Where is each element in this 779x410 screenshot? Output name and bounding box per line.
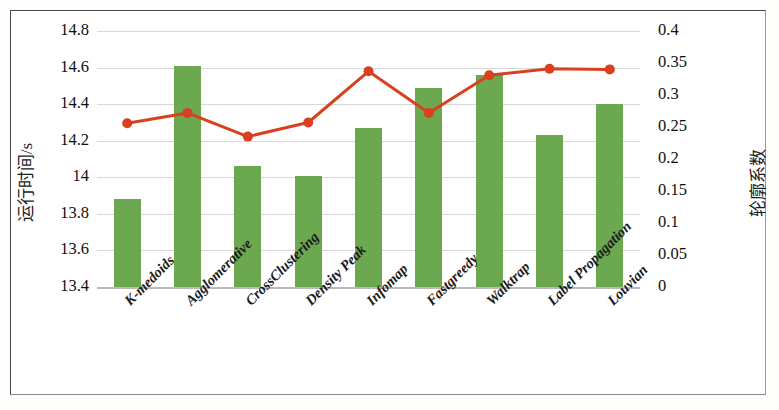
y-axis-left-tick-label: 14.2 [43, 130, 89, 150]
plot-area: K-medoids: 0.256Agglomerative: 0.272Cros… [97, 31, 640, 287]
y-axis-left-tick-label: 13.8 [43, 203, 89, 223]
y-axis-right-tick-label: 0.4 [658, 20, 718, 40]
y-axis-left-tick-label: 14.6 [43, 57, 89, 77]
line-marker: CrossClustering: 0.235 [243, 132, 253, 142]
y-axis-right-tick-label: 0.2 [658, 148, 718, 168]
y-axis-left-tick-label: 13.4 [43, 276, 89, 296]
line-marker: Label Propagation: 0.341 [545, 64, 555, 74]
line-marker: K-medoids: 0.256 [122, 118, 132, 128]
line-path [127, 69, 610, 137]
line-marker: Fastgreedy: 0.272 [424, 108, 434, 118]
y-axis-left-title: 运行时间/s [12, 103, 37, 263]
line-marker: Agglomerative: 0.272 [183, 108, 193, 118]
y-axis-left-tick-label: 14.4 [43, 93, 89, 113]
chart-figure: 运行时间/s 轮廓系数 13.413.613.81414.214.414.614… [0, 0, 779, 410]
y-axis-right-tick-label: 0.05 [658, 244, 718, 264]
y-axis-right-tick-label: 0.1 [658, 212, 718, 232]
line-marker: Density Peak: 0.257 [303, 118, 313, 128]
line-marker: Walktrap: 0.331 [484, 70, 494, 80]
y-axis-left-tick-label: 13.6 [43, 239, 89, 259]
plot-wrapper: 运行时间/s 轮廓系数 13.413.613.81414.214.414.614… [0, 0, 779, 410]
line-marker: Infomap: 0.337 [364, 66, 374, 76]
y-axis-right-tick-label: 0.35 [658, 52, 718, 72]
y-axis-right-title: 轮廓系数 [744, 103, 769, 263]
y-axis-right-tick-label: 0.25 [658, 116, 718, 136]
line-marker: Louvian: 0.34 [605, 64, 615, 74]
y-axis-left-tick-label: 14.8 [43, 20, 89, 40]
y-axis-right-tick-label: 0 [658, 276, 718, 296]
y-axis-right-tick-label: 0.15 [658, 180, 718, 200]
line-series: K-medoids: 0.256Agglomerative: 0.272Cros… [97, 31, 640, 287]
y-axis-left-tick-label: 14 [43, 166, 89, 186]
y-axis-right-tick-label: 0.3 [658, 84, 718, 104]
